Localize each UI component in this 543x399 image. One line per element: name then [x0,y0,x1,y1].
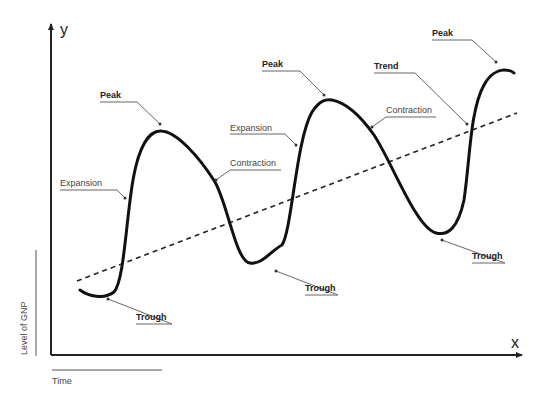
label-trend: Trend [374,61,399,71]
business-cycle-curve [80,70,514,296]
label-contraction-2: Contraction [386,105,432,115]
label-peak-2: Peak [262,59,284,69]
label-contraction-1: Contraction [230,158,276,168]
ylabel-level-of-gnp: Level of GNP [19,301,29,355]
label-peak-1: Peak [100,90,122,100]
trend-line [77,113,517,281]
business-cycle-diagram: y x Level of GNP Time [0,0,543,399]
label-trough-3: Trough [472,251,503,261]
leader-lines [60,40,505,324]
label-trough-2: Trough [305,283,336,293]
x-axis-letter: x [511,334,519,351]
xlabel-time: Time [52,376,72,386]
label-peak-3: Peak [432,28,454,38]
y-axis-letter: y [60,21,68,38]
label-trough-1: Trough [136,312,167,322]
label-expansion-1: Expansion [60,178,102,188]
label-expansion-2: Expansion [230,123,272,133]
